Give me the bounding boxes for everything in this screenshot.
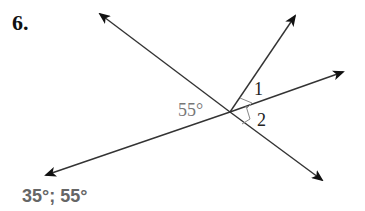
- line-b-extension: [230, 72, 343, 112]
- line-a: [100, 14, 230, 112]
- line-a-extension: [230, 112, 322, 180]
- angle-given-label: 55°: [178, 100, 203, 120]
- geometry-diagram: 55° 1 2: [0, 0, 365, 211]
- line-b: [46, 112, 230, 175]
- answer-text: 35°; 55°: [22, 186, 87, 207]
- angle-1-label: 1: [254, 79, 263, 99]
- angle-2-label: 2: [257, 110, 266, 130]
